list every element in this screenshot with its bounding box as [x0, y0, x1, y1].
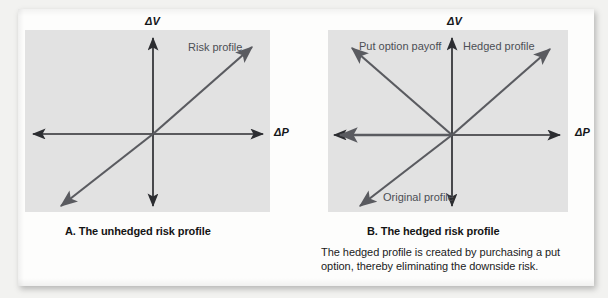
panel-a-chart-svg: [25, 30, 270, 212]
panel-a-y-axis-label: ΔV: [145, 15, 160, 27]
panel-b-caption: B. The hedged risk profile: [367, 225, 499, 237]
panel-b-note: The hedged profile is created by purchas…: [321, 246, 591, 273]
panel-b-hedged: ΔV ΔP Put option payoff Hedged profile O…: [304, 9, 594, 286]
panel-a-plot-area: [25, 30, 270, 212]
put-option-payoff-line-2: payoff: [412, 40, 442, 52]
panel-b-put-option-payoff-line: [352, 48, 452, 135]
panel-b-original-profile-line: [452, 49, 550, 135]
panel-b-note-line-2: option, thereby eliminating the downside…: [321, 260, 591, 274]
panel-b-put-option-payoff-label: Put option payoff: [359, 40, 441, 52]
figure-page: ΔV ΔP Risk profile A. The unhedged risk …: [0, 0, 608, 298]
put-option-payoff-line-1: Put option: [359, 40, 409, 52]
panel-a-risk-profile-line-lower: [61, 134, 153, 206]
panel-b-original-profile-label: Original profile: [383, 191, 454, 203]
hedged-profile-line-2: profile: [505, 40, 535, 52]
original-profile-line-1: Original: [383, 191, 421, 203]
panel-b-note-line-1: The hedged profile is created by purchas…: [321, 246, 591, 260]
hedged-profile-line-1: Hedged: [463, 40, 502, 52]
panel-a-risk-profile-line: [153, 47, 252, 134]
panel-a-caption: A. The unhedged risk profile: [65, 225, 211, 237]
panel-a-unhedged: ΔV ΔP Risk profile A. The unhedged risk …: [18, 9, 304, 286]
panel-a-x-axis-label: ΔP: [274, 126, 289, 138]
panel-b-chart-svg: [328, 30, 568, 212]
panel-b-y-axis-label: ΔV: [447, 15, 462, 27]
panel-a-risk-profile-label: Risk profile: [188, 41, 242, 53]
panel-b-x-axis-label: ΔP: [575, 126, 590, 138]
panel-b-plot-area: [328, 30, 568, 212]
panel-b-hedged-profile-label: Hedged profile: [463, 40, 535, 52]
original-profile-line-2: profile: [424, 191, 454, 203]
scanned-page-sheet: ΔV ΔP Risk profile A. The unhedged risk …: [18, 9, 594, 286]
